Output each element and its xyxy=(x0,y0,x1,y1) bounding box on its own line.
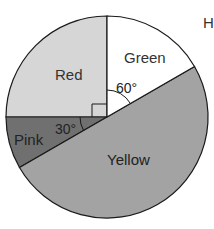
label-pink: Pink xyxy=(14,131,44,148)
label-green: Green xyxy=(124,49,166,66)
label-yellow: Yellow xyxy=(107,151,150,168)
angle-label-60: 60° xyxy=(116,80,137,96)
label-red: Red xyxy=(55,66,83,83)
pie-chart: Red Pink Yellow Green 60° 30° xyxy=(0,0,214,229)
angle-label-30: 30° xyxy=(55,121,76,137)
